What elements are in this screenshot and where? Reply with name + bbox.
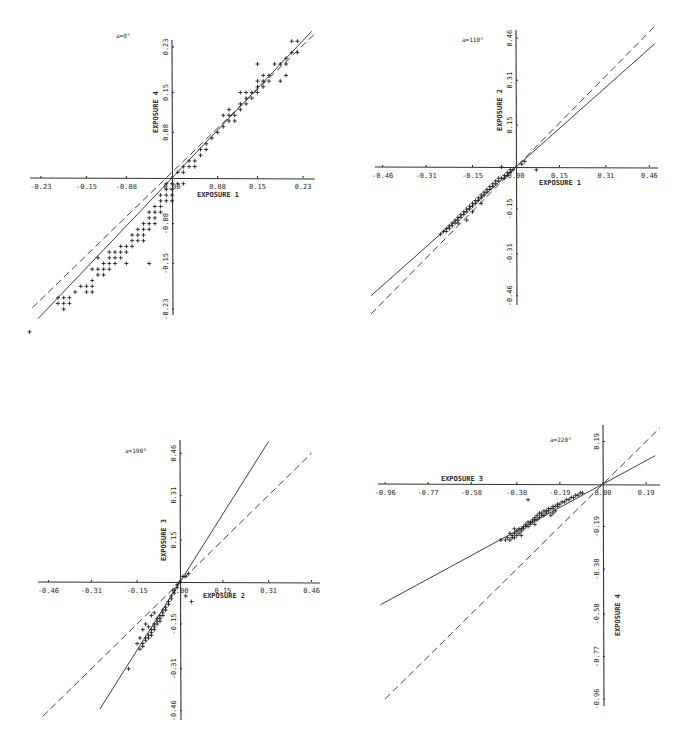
angle-annotation: a=110° xyxy=(462,36,484,43)
y-tick-label: 0.08 xyxy=(162,124,170,141)
y-tick-label: 0.19 xyxy=(593,433,601,450)
x-tick-label: 0.19 xyxy=(638,489,655,497)
x-tick-label: -0.31 xyxy=(81,587,102,595)
x-tick-label: -0.38 xyxy=(506,489,527,497)
x-axis-label: EXPOSURE 3 xyxy=(441,475,483,483)
x-axis-label: EXPOSURE 1 xyxy=(539,179,581,187)
y-tick-label: -0.19 xyxy=(593,516,601,537)
x-tick-label: -0.96 xyxy=(375,489,396,497)
y-tick-label: 0.46 xyxy=(506,30,514,47)
y-tick-label: -0.38 xyxy=(593,559,601,580)
y-tick-label: -0.15 xyxy=(506,198,514,219)
y-axis-label: EXPOSURE 3 xyxy=(160,519,168,561)
x-tick-label: -0.31 xyxy=(416,172,437,180)
reference-line-dashed xyxy=(385,428,660,699)
data-points xyxy=(499,491,585,542)
y-tick-label: -0.96 xyxy=(593,689,601,710)
x-tick-label: -0.46 xyxy=(372,172,393,180)
y-tick-label: 0.31 xyxy=(506,72,514,89)
scatter-plot-grid: -0.23-0.15-0.080.000.080.150.230.230.150… xyxy=(0,0,686,746)
y-tick-label: -0.31 xyxy=(506,243,514,264)
fit-line-solid xyxy=(381,456,656,605)
angle-annotation: a=190° xyxy=(125,447,147,454)
y-tick-label: -0.08 xyxy=(162,213,170,234)
y-axis-label: EXPOSURE 2 xyxy=(496,89,504,131)
figure-panel-grid: -0.23-0.15-0.080.000.080.150.230.230.150… xyxy=(0,0,686,746)
y-axis-label: EXPOSURE 4 xyxy=(152,91,160,133)
y-axis-label: EXPOSURE 4 xyxy=(614,594,622,636)
fit-line-solid xyxy=(38,31,312,318)
scatter-panel-3: -0.46-0.31-0.150.000.150.310.460.460.310… xyxy=(38,440,320,721)
y-tick-label: -0.46 xyxy=(506,285,514,306)
x-tick-label: 0.08 xyxy=(209,183,226,191)
y-tick-label: 0.23 xyxy=(162,38,170,55)
y-tick-label: -0.46 xyxy=(170,700,178,721)
x-tick-label: -0.15 xyxy=(462,172,483,180)
y-tick-label: -0.15 xyxy=(162,253,170,274)
y-tick-label: 0.15 xyxy=(170,532,178,549)
x-tick-label: 0.46 xyxy=(641,172,658,180)
y-tick-label: -0.31 xyxy=(170,658,178,679)
y-axis xyxy=(516,30,517,305)
y-tick-label: 0.15 xyxy=(162,84,170,101)
scatter-panel-4: -0.96-0.77-0.58-0.38-0.190.000.190.19-0.… xyxy=(375,425,660,710)
y-tick-label: 0.31 xyxy=(170,487,178,504)
y-tick-label: -0.77 xyxy=(593,646,601,667)
x-tick-label: -0.08 xyxy=(116,183,137,191)
x-tick-label: -0.15 xyxy=(127,587,148,595)
scatter-panel-1: -0.23-0.15-0.080.000.080.150.230.230.150… xyxy=(28,31,316,334)
x-tick-label: 0.46 xyxy=(303,587,320,595)
x-tick-label: -0.77 xyxy=(418,489,439,497)
y-tick-label: -0.15 xyxy=(170,613,178,634)
scatter-panel-2: -0.46-0.31-0.150.000.150.310.460.460.310… xyxy=(371,26,658,314)
y-tick-label: -0.23 xyxy=(162,299,170,320)
x-axis xyxy=(378,484,660,485)
reference-line-dashed xyxy=(32,34,314,308)
y-tick-label: -0.58 xyxy=(593,603,601,624)
angle-annotation: a=220° xyxy=(550,436,572,443)
x-tick-label: 0.15 xyxy=(249,183,266,191)
data-points xyxy=(439,159,539,236)
x-tick-label: -0.58 xyxy=(461,489,482,497)
x-tick-label: 0.23 xyxy=(295,183,312,191)
y-tick-label: 0.15 xyxy=(506,117,514,134)
x-tick-label: -0.23 xyxy=(30,183,51,191)
x-tick-label: 0.31 xyxy=(597,172,614,180)
x-tick-label: -0.15 xyxy=(76,183,97,191)
x-tick-label: 0.31 xyxy=(260,587,277,595)
x-axis-label: EXPOSURE 2 xyxy=(203,592,245,600)
fit-line-solid xyxy=(100,441,269,709)
y-tick-label: 0.46 xyxy=(170,445,178,462)
angle-annotation: a=0° xyxy=(116,32,130,39)
x-tick-label: -0.19 xyxy=(549,489,570,497)
x-axis-label: EXPOSURE 1 xyxy=(197,191,239,199)
y-axis xyxy=(603,425,604,706)
x-tick-label: -0.46 xyxy=(38,587,59,595)
